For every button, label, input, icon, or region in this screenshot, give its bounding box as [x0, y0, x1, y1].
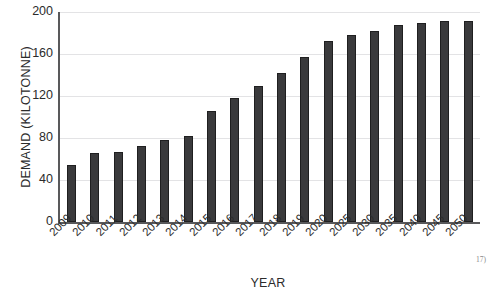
bar-slot	[107, 12, 130, 222]
bar	[394, 25, 403, 222]
bar	[370, 31, 379, 222]
bar-slot	[387, 12, 410, 222]
bar	[324, 41, 333, 222]
bar	[184, 136, 193, 222]
bar-slot	[293, 12, 316, 222]
bar-chart-figure: DEMAND (KILOTONNE) 04080120160200 200920…	[0, 0, 496, 298]
bar-slot	[317, 12, 340, 222]
bar	[347, 35, 356, 222]
bar	[207, 111, 216, 222]
y-axis-tick-label: 120	[21, 89, 53, 102]
x-axis-title: YEAR	[58, 276, 478, 290]
plot-area	[58, 12, 480, 224]
bar-slot	[153, 12, 176, 222]
bar-slot	[177, 12, 200, 222]
x-axis-tick-labels: 2009201020112012201320142015201620172018…	[58, 224, 478, 270]
bar	[114, 152, 123, 222]
bar	[230, 98, 239, 222]
y-axis-tick-labels: 04080120160200	[20, 0, 53, 298]
bar-slot	[410, 12, 433, 222]
bar-slot	[60, 12, 83, 222]
bar-slot	[200, 12, 223, 222]
y-axis-tick-label: 40	[21, 173, 53, 186]
bar	[300, 57, 309, 222]
x-tick-slot: 2050	[455, 224, 478, 270]
bar	[137, 146, 146, 222]
y-axis-tick-label: 80	[21, 131, 53, 144]
bar-slot	[83, 12, 106, 222]
y-axis-tick-label: 200	[21, 5, 53, 18]
bar-slot	[457, 12, 480, 222]
bar-series	[60, 12, 480, 222]
y-axis-tick-label: 160	[21, 47, 53, 60]
bar	[90, 153, 99, 222]
footnote-marker: 17)	[476, 255, 486, 264]
bar	[464, 21, 473, 222]
bar	[67, 165, 76, 222]
bar-slot	[363, 12, 386, 222]
bar-slot	[130, 12, 153, 222]
bar	[440, 21, 449, 222]
bar-slot	[433, 12, 456, 222]
bar	[417, 23, 426, 223]
bar	[277, 73, 286, 222]
bar-slot	[223, 12, 246, 222]
bar	[160, 140, 169, 222]
y-axis-tick-label: 0	[21, 215, 53, 228]
bar-slot	[340, 12, 363, 222]
bar-slot	[247, 12, 270, 222]
bar-slot	[270, 12, 293, 222]
bar	[254, 86, 263, 223]
